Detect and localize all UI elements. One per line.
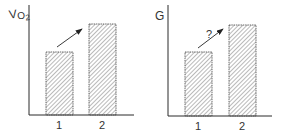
- right-tick-1: 1: [195, 120, 201, 132]
- diagram-canvas: VO2 1 2 G ? 1 2: [0, 0, 282, 136]
- left-bar-2: [89, 24, 116, 115]
- left-increase-arrow-icon: [57, 29, 82, 47]
- right-y-label: G: [155, 9, 164, 23]
- left-bar-1: [46, 52, 73, 115]
- right-bar-1: [185, 52, 212, 116]
- right-chart: G ? 1 2: [155, 5, 272, 132]
- right-tick-2: 2: [239, 120, 245, 132]
- right-bar-2: [229, 25, 256, 116]
- left-tick-2: 2: [99, 119, 105, 131]
- left-y-label: VO2: [8, 5, 31, 25]
- left-tick-1: 1: [56, 119, 62, 131]
- left-chart: VO2 1 2: [8, 5, 134, 131]
- right-question-mark: ?: [206, 28, 212, 40]
